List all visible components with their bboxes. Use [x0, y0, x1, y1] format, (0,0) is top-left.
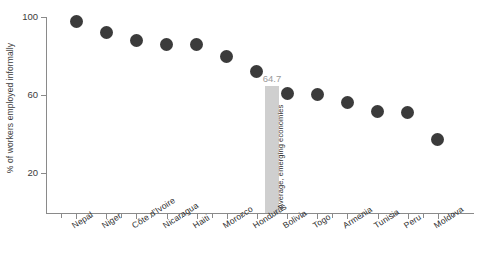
- x-tick-label: Togo: [311, 212, 332, 231]
- x-tick-mark-minor: [272, 214, 273, 218]
- y-tick-mark-20: [41, 173, 46, 174]
- y-tick-label-100: 100: [0, 12, 38, 22]
- data-point: [100, 26, 113, 39]
- data-point: [70, 15, 83, 28]
- y-tick-label-60: 60: [0, 90, 38, 100]
- x-tick-mark-minor: [151, 214, 152, 218]
- data-point: [431, 133, 444, 146]
- x-tick-mark-minor: [302, 214, 303, 218]
- x-tick-mark-minor: [453, 214, 454, 218]
- data-point: [160, 38, 173, 51]
- x-tick-label: Moldova: [432, 204, 465, 230]
- x-tick-mark-minor: [91, 214, 92, 218]
- x-tick-label: Armenia: [341, 204, 374, 230]
- x-tick-mark-minor: [423, 214, 424, 218]
- x-tick-mark-minor: [242, 214, 243, 218]
- x-tick-mark-minor: [121, 214, 122, 218]
- data-point: [341, 96, 354, 109]
- average-bar-label: Average, emerging economies: [276, 105, 285, 209]
- data-point: [311, 88, 324, 101]
- x-tick-mark-minor: [182, 214, 183, 218]
- x-tick-label: Peru: [402, 212, 423, 230]
- y-axis-title: % of workers employed informally: [3, 0, 17, 216]
- x-tick-mark-minor: [212, 214, 213, 218]
- data-point: [220, 50, 233, 63]
- data-point: [401, 106, 414, 119]
- x-tick-label: Tunisia: [372, 207, 401, 231]
- data-point: [130, 34, 143, 47]
- data-point: [371, 105, 384, 118]
- chart-container: % of workers employed informally 100 60 …: [0, 0, 479, 269]
- x-tick-mark-minor: [393, 214, 394, 218]
- y-tick-label-20: 20: [0, 168, 38, 178]
- data-point: [281, 87, 294, 100]
- x-tick-mark-minor: [362, 214, 363, 218]
- x-tick-mark-minor: [61, 214, 62, 218]
- data-point: [190, 38, 203, 51]
- y-tick-mark-100: [41, 17, 46, 18]
- y-tick-mark-60: [41, 95, 46, 96]
- y-axis-line: [46, 17, 47, 213]
- x-tick-label: Haiti: [191, 212, 211, 230]
- x-tick-mark-minor: [332, 214, 333, 218]
